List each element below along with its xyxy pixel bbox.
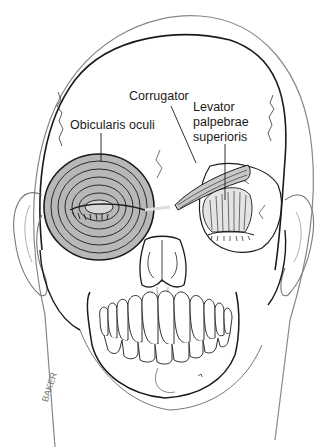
label-levator-line3: superioris [193,130,249,145]
label-corrugator: Corrugator [129,89,189,103]
orbicularis-oculi-muscle [44,154,170,260]
coronal-suture-right [268,95,274,141]
label-levator-palpebrae-superioris: Levator palpebrae superioris [193,100,249,145]
teeth [100,291,232,364]
label-levator-line1: Levator [193,100,249,115]
levator-palpebrae-muscle [175,165,254,241]
label-orbicularis-oculi: Obicularis oculi [70,118,155,132]
label-levator-line2: palpebrae [193,115,249,130]
